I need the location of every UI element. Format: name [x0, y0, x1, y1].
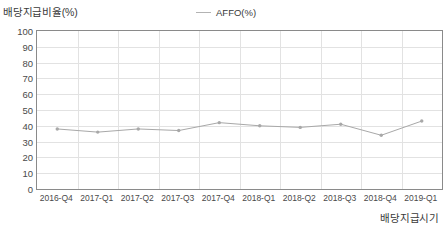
- data-point-marker: [96, 130, 99, 133]
- data-point-marker: [258, 124, 261, 127]
- data-point-marker: [299, 126, 302, 129]
- y-axis-tick-label: 60: [3, 89, 33, 100]
- y-axis-tick-label: 30: [3, 136, 33, 147]
- x-axis-tick-label: 2017-Q1: [80, 193, 113, 203]
- data-point-marker: [339, 123, 342, 126]
- y-axis-title: 배당지급비율(%): [3, 4, 78, 19]
- data-point-marker: [137, 127, 140, 130]
- plot-area: [36, 30, 443, 190]
- y-axis-tick-label: 90: [3, 41, 33, 52]
- y-axis-tick-label: 10: [3, 168, 33, 179]
- series-line: [57, 121, 422, 135]
- series-affo-line: [37, 31, 442, 189]
- y-axis-tick-label: 40: [3, 120, 33, 131]
- x-axis-tick-label: 2018-Q2: [283, 193, 316, 203]
- legend-entry-label: AFFO(%): [216, 7, 256, 18]
- x-axis-tick-label: 2016-Q4: [40, 193, 73, 203]
- x-axis-tick-label: 2017-Q2: [121, 193, 154, 203]
- x-axis-tick-label: 2018-Q4: [364, 193, 397, 203]
- y-axis-tick-label: 80: [3, 57, 33, 68]
- x-axis-tick-label: 2018-Q3: [323, 193, 356, 203]
- chart-screenshot: 배당지급비율(%) AFFO(%) 1009080706050403020100…: [0, 0, 445, 234]
- y-axis-tick-label: 100: [3, 26, 33, 37]
- data-point-marker: [420, 119, 423, 122]
- y-axis-tick-labels: 1009080706050403020100: [0, 30, 33, 190]
- x-axis-tick-label: 2017-Q4: [202, 193, 235, 203]
- y-axis-tick-label: 20: [3, 152, 33, 163]
- y-axis-tick-label: 70: [3, 73, 33, 84]
- x-axis-title: 배당지급시기: [380, 210, 439, 225]
- data-point-marker: [380, 134, 383, 137]
- x-axis-tick-label: 2017-Q3: [161, 193, 194, 203]
- chart-legend: AFFO(%): [196, 7, 256, 18]
- data-point-marker: [218, 121, 221, 124]
- data-point-marker: [56, 127, 59, 130]
- line-marker-icon: [196, 12, 211, 13]
- y-axis-tick-label: 50: [3, 105, 33, 116]
- x-axis-tick-label: 2019-Q1: [404, 193, 437, 203]
- x-axis-tick-labels: 2016-Q42017-Q12017-Q22017-Q32017-Q42018-…: [36, 193, 443, 207]
- x-axis-tick-label: 2018-Q1: [242, 193, 275, 203]
- data-point-marker: [177, 129, 180, 132]
- y-axis-tick-label: 0: [3, 184, 33, 195]
